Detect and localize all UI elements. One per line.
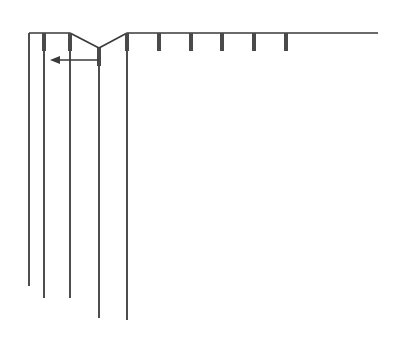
notch-right-diagonal xyxy=(99,33,127,48)
tick-marks xyxy=(159,33,286,51)
arrowhead-icon xyxy=(50,56,60,64)
v-notch xyxy=(70,33,127,48)
vertical-lines xyxy=(29,33,127,320)
left-arrow-icon xyxy=(50,56,99,64)
diagram-canvas xyxy=(0,0,397,337)
line-diagram xyxy=(0,0,397,337)
notch-left-diagonal xyxy=(70,33,99,48)
